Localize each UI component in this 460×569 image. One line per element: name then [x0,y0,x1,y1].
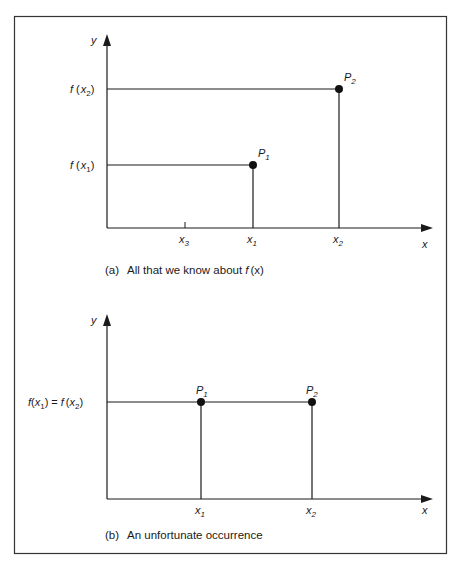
panel-b-p1-label: P1 [196,384,208,399]
panel-a-x1-label: x1 [246,233,257,248]
panel-a-p1-label: P1 [258,147,270,162]
panel-b-point-p1 [197,398,205,406]
panel-b-x1-label: x1 [194,504,205,519]
panel-a-x3-label: x3 [178,233,190,248]
panel-a-x-arrow-icon [421,224,433,232]
panel-a-point-p2 [335,85,343,93]
panel-b-y-arrow-icon [103,314,111,326]
panel-a-fx1-label: f(x1) [70,159,94,174]
panel-b-x-arrow-icon [421,495,433,503]
panel-b-x-label: x [421,504,428,516]
panel-a-y-label: y [90,34,98,46]
panel-a-p2-label: P2 [344,71,356,86]
panel-b-fx-equality-label: f(x1)=f(x2) [28,396,83,411]
panel-b-y-label: y [90,314,98,326]
panel-b-caption: (b)An unfortunate occurrence [105,529,263,541]
panel-a-x2-label: x2 [332,233,344,248]
panel-a-fx2-label: f(x2) [70,83,94,98]
figure-frame [15,17,447,554]
panel-b: y x P1 P2 f(x1)=f(x2) x1 x2 (b)An unfort… [28,314,433,541]
panel-b-p2-label: P2 [306,384,318,399]
figure-canvas: y x P1 P2 f(x2) f(x1) x3 x1 x2 (a)All th… [0,0,460,569]
panel-a-y-arrow-icon [103,34,111,46]
panel-a: y x P1 P2 f(x2) f(x1) x3 x1 x2 (a)All th… [70,34,433,276]
panel-a-caption: (a)All that we know about f(x) [105,264,264,276]
panel-b-x2-label: x2 [305,504,317,519]
panel-a-point-p1 [249,161,257,169]
panel-a-x-label: x [421,238,428,250]
panel-b-point-p2 [308,398,316,406]
